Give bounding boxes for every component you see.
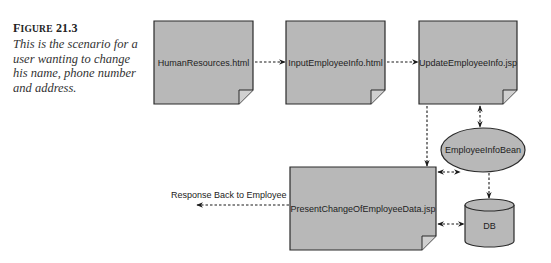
node-human-resources: HumanResources.html: [154, 21, 253, 104]
node-db: DB: [465, 199, 514, 247]
node-update-employee-info: UpdateEmployeeInfo.jsp: [419, 21, 517, 104]
node-label: PresentChangeOfEmployeeData.jsp: [290, 204, 435, 214]
node-input-employee-info: InputEmployeeInfo.html: [286, 21, 385, 104]
response-label: Response Back to Employee: [171, 190, 287, 200]
node-label: HumanResources.html: [158, 58, 250, 68]
node-label: InputEmployeeInfo.html: [288, 58, 383, 68]
node-label: EmployeeInfoBean: [445, 145, 521, 155]
node-employee-info-bean: EmployeeInfoBean: [441, 128, 525, 172]
node-label: DB: [483, 221, 496, 231]
flow-diagram: HumanResources.html InputEmployeeInfo.ht…: [0, 0, 551, 263]
node-present-change: PresentChangeOfEmployeeData.jsp: [290, 167, 436, 250]
node-label: UpdateEmployeeInfo.jsp: [419, 58, 517, 68]
